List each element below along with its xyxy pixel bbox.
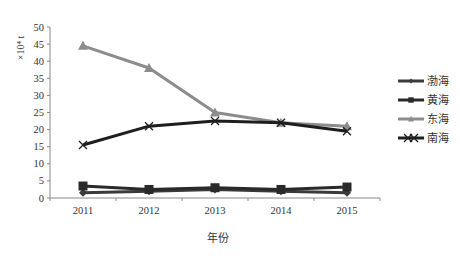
y-tick-label: 35 xyxy=(34,73,45,84)
legend-item: 东海 xyxy=(398,112,449,125)
square-marker xyxy=(145,185,154,194)
y-axis-label: ×10⁴ t xyxy=(15,36,26,61)
legend-label: 黄海 xyxy=(427,93,449,106)
x-tick-label: 2013 xyxy=(205,205,226,216)
x-tick-label: 2011 xyxy=(73,205,94,216)
y-tick-label: 45 xyxy=(34,39,45,50)
legend-label: 南海 xyxy=(427,131,449,144)
square-marker xyxy=(211,183,220,192)
y-tick-label: 40 xyxy=(34,56,45,67)
diamond-marker xyxy=(409,79,414,84)
y-tick-label: 50 xyxy=(34,22,45,33)
triangle-marker xyxy=(78,41,88,50)
y-tick-label: 30 xyxy=(34,90,45,101)
legend: 渤海黄海东海南海 xyxy=(398,74,449,144)
line-chart: 0510152025303540455020112012201320142015… xyxy=(0,0,460,258)
square-marker xyxy=(277,185,286,194)
legend-item: 渤海 xyxy=(398,74,449,87)
legend-item: 南海 xyxy=(398,131,449,144)
y-tick-label: 25 xyxy=(34,107,45,118)
x-axis-label: 年份 xyxy=(207,231,229,244)
square-marker xyxy=(408,97,413,102)
y-tick-label: 10 xyxy=(34,158,45,169)
series-line xyxy=(79,117,351,149)
x-tick-label: 2015 xyxy=(337,205,358,216)
y-tick-label: 20 xyxy=(34,124,45,135)
y-tick-label: 15 xyxy=(34,141,45,152)
square-marker xyxy=(343,183,352,192)
legend-label: 渤海 xyxy=(427,74,449,87)
x-tick-label: 2014 xyxy=(271,205,293,216)
legend-label: 东海 xyxy=(427,112,449,125)
legend-item: 黄海 xyxy=(398,93,449,106)
y-tick-label: 5 xyxy=(39,175,44,186)
x-tick-label: 2012 xyxy=(139,205,160,216)
series-line xyxy=(78,41,352,130)
series-layer xyxy=(78,41,352,197)
square-marker xyxy=(79,182,88,191)
y-tick-label: 0 xyxy=(39,193,44,204)
